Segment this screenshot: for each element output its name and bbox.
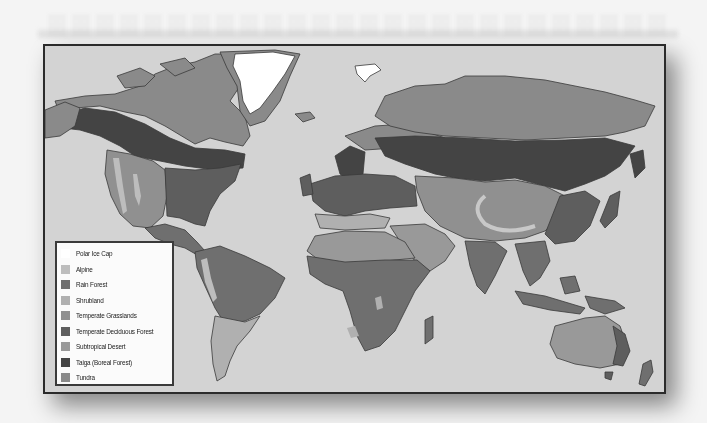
legend-item-taiga: Taiga (Boreal Forest) (61, 355, 168, 371)
legend-swatch (61, 296, 70, 305)
legend-label: Taiga (Boreal Forest) (76, 358, 132, 367)
legend-item-polar-ice-cap: Polar Ice Cap (61, 246, 168, 262)
india (465, 241, 507, 294)
japan (600, 191, 620, 228)
legend-label: Subtropical Desert (76, 342, 125, 351)
map-legend: Polar Ice Cap Alpine Rain Forest Shrubla… (55, 241, 174, 386)
europe-deciduous (310, 174, 417, 216)
uk-deciduous (300, 174, 313, 196)
mediterranean-shrubland (315, 214, 390, 230)
legend-swatch (61, 342, 70, 351)
legend-item-tundra: Tundra (61, 370, 168, 386)
southeast-asia (515, 241, 550, 286)
legend-item-subtropical-desert: Subtropical Desert (61, 339, 168, 355)
svalbard-ice (355, 64, 381, 82)
legend-swatch (61, 280, 70, 289)
africa-rainforest (307, 256, 430, 351)
legend-swatch (61, 358, 70, 367)
iceland (295, 112, 315, 122)
tasmania (605, 372, 613, 380)
asia-tundra (375, 76, 655, 140)
legend-item-alpine: Alpine (61, 262, 168, 278)
madagascar (425, 316, 433, 344)
legend-label: Temperate Deciduous Forest (76, 327, 153, 336)
alaska (45, 102, 80, 138)
legend-label: Shrubland (76, 296, 104, 305)
south-america-grassland (211, 316, 260, 381)
legend-swatch (61, 265, 70, 274)
legend-item-temperate-deciduous-forest: Temperate Deciduous Forest (61, 324, 168, 340)
legend-label: Alpine (76, 265, 93, 274)
legend-swatch (61, 327, 70, 336)
legend-label: Temperate Grasslands (76, 311, 137, 320)
legend-swatch (61, 311, 70, 320)
new-zealand (639, 360, 653, 386)
legend-item-temperate-grasslands: Temperate Grasslands (61, 308, 168, 324)
legend-label: Tundra (76, 373, 95, 382)
legend-item-rain-forest: Rain Forest (61, 277, 168, 293)
kamchatka (630, 150, 645, 178)
legend-label: Polar Ice Cap (76, 249, 112, 258)
north-america-deciduous (165, 164, 241, 226)
legend-label: Rain Forest (76, 280, 107, 289)
world-biome-map: Polar Ice Cap Alpine Rain Forest Shrubla… (43, 44, 666, 394)
legend-swatch (61, 249, 70, 258)
bleed-through-line (38, 30, 678, 38)
legend-swatch (61, 373, 70, 382)
legend-item-shrubland: Shrubland (61, 293, 168, 309)
